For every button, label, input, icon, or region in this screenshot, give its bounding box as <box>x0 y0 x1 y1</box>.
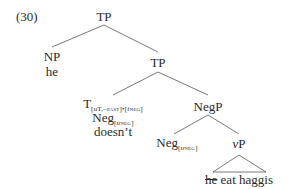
node-np: NP <box>44 50 61 64</box>
node-tp: TP <box>150 56 165 70</box>
example-number: (30) <box>16 10 38 24</box>
node-vp: vP <box>232 137 245 151</box>
node-neg: Neg[uneg] <box>156 136 197 155</box>
triangle-text: he eat haggis <box>205 173 273 187</box>
node-tp-root: TP <box>96 10 111 24</box>
word-doesnt: doesn’t <box>94 125 132 139</box>
word-he: he <box>46 65 58 79</box>
node-negp: NegP <box>194 100 223 114</box>
tree-branches <box>0 0 298 189</box>
